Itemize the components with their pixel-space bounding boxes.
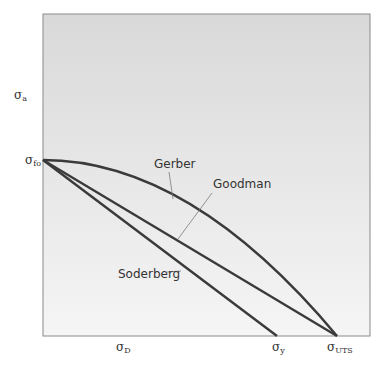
goodman-label: Goodman (213, 177, 271, 191)
x-tick-sigma-y: σy (272, 340, 285, 355)
x-tick-sigma-d: σD (116, 340, 131, 355)
soderberg-label: Soderberg (118, 267, 180, 281)
y-axis-label: σa (14, 88, 27, 103)
gerber-label: Gerber (154, 157, 196, 171)
y-tick-sigma-fo: σfo (25, 153, 41, 168)
fatigue-diagram: Gerber Goodman Soderberg σa σfo σD σy σU… (0, 0, 382, 366)
plot-area (43, 14, 370, 336)
x-tick-sigma-uts: σUTS (327, 340, 353, 355)
